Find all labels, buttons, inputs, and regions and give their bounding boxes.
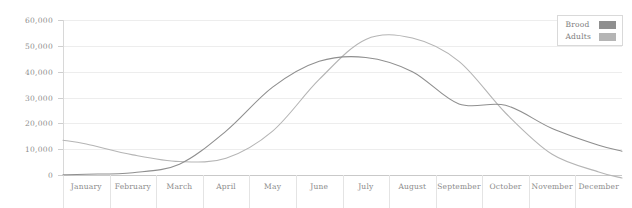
series-line-adults	[63, 35, 622, 178]
legend-item-adults: Adults	[565, 32, 616, 41]
legend-swatch-adults	[599, 33, 616, 41]
legend-label-adults: Adults	[565, 32, 591, 41]
seasonal-population-chart: 60,00050,00040,00030,00020,00010,0000 Ja…	[0, 0, 632, 208]
legend: Brood Adults	[557, 15, 623, 46]
legend-label-brood: Brood	[565, 20, 589, 29]
legend-item-brood: Brood	[565, 20, 616, 29]
legend-swatch-brood	[599, 21, 616, 29]
series-lines	[0, 0, 632, 208]
